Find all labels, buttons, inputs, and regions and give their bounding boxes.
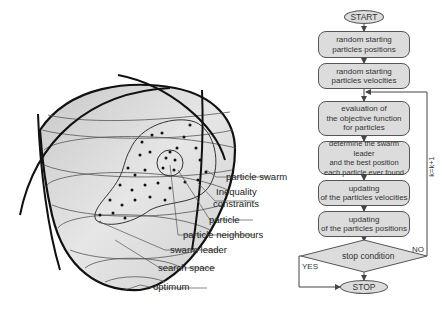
label-particle: particle (209, 214, 240, 225)
step-line: particles velocities (319, 76, 409, 86)
label-optimum: optimum (153, 281, 189, 292)
step-line: updating (319, 215, 409, 225)
step-line: each particle ever found (319, 168, 409, 178)
step-line: evaluation of (319, 104, 409, 114)
search-space-bowl (40, 85, 236, 290)
label-particle-swarm: particle swarm (226, 171, 287, 182)
label-particle-neighbours: particle neighbours (183, 229, 263, 240)
step-evaluate-objective: evaluation of the objective function for… (318, 101, 410, 136)
decision-label: stop condition (342, 251, 394, 261)
label-inequality-constraints-line2: constraints (213, 198, 259, 209)
label-inequality-constraints-line1: Inequality (216, 186, 257, 197)
step-line: particles positions (319, 45, 409, 55)
loop-counter-label: k=k+1 (427, 156, 436, 176)
step-random-velocities: random starting particles velocities (318, 63, 410, 89)
step-line: of the particles velocities (319, 193, 409, 203)
step-line: and the best position (319, 158, 409, 168)
label-search-space: search space (158, 262, 215, 273)
start-node: START (344, 10, 384, 24)
step-line: for particles (319, 123, 409, 133)
label-swarm-leader: swarm leader (170, 244, 227, 255)
step-line: determine the swarm leader (319, 139, 409, 158)
step-update-positions: updating of the particles positions (318, 211, 410, 237)
step-random-positions: random starting particles positions (318, 31, 410, 58)
step-line: the objective function (319, 114, 409, 124)
step-determine-leader: determine the swarm leader and the best … (318, 141, 410, 175)
stop-node: STOP (340, 280, 388, 294)
step-line: updating (319, 184, 409, 194)
yes-label: YES (302, 262, 318, 271)
step-update-velocities: updating of the particles velocities (318, 180, 410, 206)
step-line: random starting (319, 67, 409, 77)
no-label: NO (412, 245, 424, 254)
step-line: of the particles positions (319, 224, 409, 234)
step-line: random starting (319, 35, 409, 45)
